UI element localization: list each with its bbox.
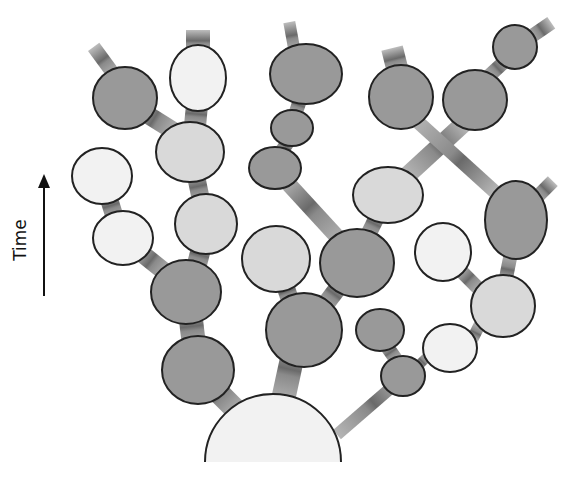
node-n2-dark	[151, 260, 221, 324]
node-n21-white	[415, 223, 471, 281]
node-n14-dark	[271, 110, 313, 146]
node-n3-light	[175, 194, 237, 254]
node-n17-dark	[443, 70, 507, 130]
node-n18-dark	[493, 25, 537, 69]
time-branching-diagram	[0, 0, 575, 479]
node-n4-light	[156, 122, 224, 182]
node-n13-dark	[249, 147, 301, 189]
node-n6-dark	[93, 67, 157, 129]
node-n23-dark	[381, 356, 425, 396]
node-n20-light	[471, 275, 535, 337]
node-n7-white	[93, 211, 153, 265]
node-n11-dark	[320, 229, 394, 297]
node-n5-white	[170, 45, 226, 111]
node-n15-dark	[270, 44, 342, 104]
node-n12-light	[353, 167, 423, 223]
node-n10-light	[242, 226, 310, 292]
node-n1-dark	[162, 336, 234, 404]
node-n9-dark	[266, 293, 342, 367]
node-n24-dark	[356, 309, 404, 351]
time-arrow-icon	[38, 174, 50, 296]
node-n22-white	[423, 324, 477, 372]
node-n8-white	[72, 148, 132, 204]
node-n19-dark	[485, 181, 547, 259]
time-axis-label: Time	[10, 219, 30, 261]
node-n16-dark	[369, 65, 433, 129]
